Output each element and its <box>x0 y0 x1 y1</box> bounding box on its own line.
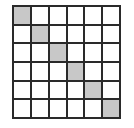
shaded-cell <box>102 99 120 118</box>
grid-cell <box>84 25 102 44</box>
grid-cell <box>84 6 102 25</box>
grid-cell <box>49 99 67 118</box>
grid-cell <box>31 99 49 118</box>
grid-cell <box>84 43 102 62</box>
grid-cell <box>13 99 31 118</box>
grid-cell <box>49 6 67 25</box>
grid-cell <box>31 43 49 62</box>
grid-cell <box>67 43 85 62</box>
grid-cell <box>31 62 49 81</box>
grid-cell <box>49 25 67 44</box>
grid-cell <box>102 6 120 25</box>
grid-cell <box>67 25 85 44</box>
grid-cell <box>84 99 102 118</box>
grid-cell <box>49 81 67 100</box>
shaded-cell <box>49 43 67 62</box>
shaded-cell <box>67 62 85 81</box>
grid-cell <box>67 81 85 100</box>
grid-cell <box>67 6 85 25</box>
diagonal-grid <box>12 5 121 119</box>
grid-cell <box>67 99 85 118</box>
grid-cell <box>102 81 120 100</box>
grid-cell <box>13 62 31 81</box>
grid-cell <box>13 81 31 100</box>
shaded-cell <box>13 6 31 25</box>
shaded-cell <box>84 81 102 100</box>
grid-cell <box>84 62 102 81</box>
grid-cell <box>31 6 49 25</box>
grid-cell <box>102 62 120 81</box>
grid-cell <box>13 25 31 44</box>
grid-cell <box>102 25 120 44</box>
grid-cell <box>49 62 67 81</box>
shaded-cell <box>31 25 49 44</box>
grid-cell <box>31 81 49 100</box>
grid-cell <box>13 43 31 62</box>
grid-cell <box>102 43 120 62</box>
